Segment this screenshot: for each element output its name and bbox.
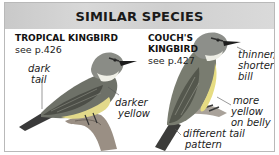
label-on-belly: on belly bbox=[231, 117, 271, 128]
label-dark: dark bbox=[28, 63, 50, 74]
label-shorter: shorter bbox=[238, 60, 274, 71]
species-name-couchs-line2: KINGBIRD bbox=[148, 44, 198, 55]
similar-species-panel: SIMILAR SPECIES bbox=[4, 2, 275, 152]
label-bill: bill bbox=[238, 71, 253, 82]
page-reference-tropical-kingbird: see p.426 bbox=[15, 44, 62, 55]
label-thinner: thinner, bbox=[238, 49, 275, 60]
label-tail: tail bbox=[31, 74, 47, 85]
label-darker: darker bbox=[115, 97, 148, 108]
page-reference-couchs-kingbird: see p.427 bbox=[148, 55, 195, 66]
label-different-tail: different tail bbox=[183, 128, 245, 139]
label-yellow: yellow bbox=[118, 108, 150, 119]
label-pattern: pattern bbox=[185, 139, 222, 150]
species-name-couchs-line1: COUCH'S bbox=[148, 33, 193, 44]
label-yellow-2: yellow bbox=[231, 106, 263, 117]
label-more: more bbox=[233, 95, 259, 106]
species-name-tropical-kingbird: TROPICAL KINGBIRD bbox=[15, 33, 118, 44]
